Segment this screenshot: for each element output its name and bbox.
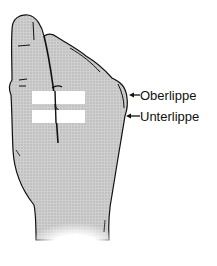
hand-illustration bbox=[0, 0, 217, 266]
hand-diagram: Oberlippe Unterlippe bbox=[0, 0, 217, 266]
upper-marker-bar bbox=[32, 91, 85, 104]
label-oberlippe: Oberlippe bbox=[140, 89, 196, 102]
lower-marker-bar bbox=[32, 110, 85, 123]
label-unterlippe: Unterlippe bbox=[140, 110, 199, 123]
arrow-oberlippe-icon bbox=[129, 93, 140, 98]
arrow-unterlippe-icon bbox=[126, 114, 140, 119]
